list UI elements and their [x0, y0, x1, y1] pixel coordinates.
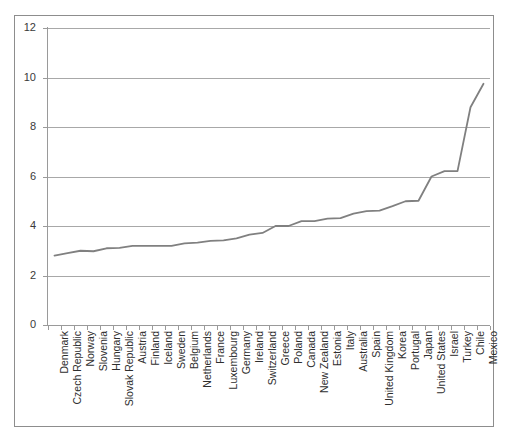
- x-axis-tick-label: Belgium: [189, 331, 200, 369]
- y-axis-tick-label: 12: [10, 22, 36, 33]
- x-axis-tick-mark: [243, 326, 244, 330]
- x-axis-tick-mark: [191, 326, 192, 330]
- x-axis-tick-mark: [334, 326, 335, 330]
- x-axis-tick-mark: [178, 326, 179, 330]
- y-axis-tick-label: 0: [10, 319, 36, 330]
- x-axis-tick-label: Hungary: [111, 331, 122, 371]
- x-axis-tick-label: Sweden: [176, 331, 187, 369]
- x-axis-tick-mark: [100, 326, 101, 330]
- x-axis-tick-label: United Kingdom: [384, 331, 395, 406]
- y-axis-tick-mark: [43, 78, 48, 79]
- x-axis-tick-label: Italy: [345, 331, 356, 350]
- x-axis-tick-mark: [282, 326, 283, 330]
- x-axis-tick-mark: [399, 326, 400, 330]
- x-axis-tick-mark: [321, 326, 322, 330]
- x-axis-tick-mark: [61, 326, 62, 330]
- x-axis-tick-mark: [165, 326, 166, 330]
- x-axis-tick-label: Israel: [449, 331, 460, 357]
- x-axis-tick-mark: [126, 326, 127, 330]
- x-axis-tick-mark: [139, 326, 140, 330]
- x-axis-tick-label: Portugal: [410, 331, 421, 370]
- x-axis-tick-mark: [347, 326, 348, 330]
- x-axis-tick-label: New Zealand: [319, 331, 330, 393]
- x-axis-tick-label: Japan: [423, 331, 434, 360]
- x-axis-tick-mark: [87, 326, 88, 330]
- x-axis-tick-mark: [204, 326, 205, 330]
- y-axis-tick-label: 8: [10, 121, 36, 132]
- x-axis-tick-label: Ireland: [254, 331, 265, 363]
- x-axis-tick-mark: [464, 326, 465, 330]
- y-axis-tick-mark: [43, 177, 48, 178]
- x-axis-tick-label: Switzerland: [267, 331, 278, 385]
- y-axis-tick-label: 10: [10, 72, 36, 83]
- x-axis-tick-mark: [152, 326, 153, 330]
- x-axis-tick-label: United States: [436, 331, 447, 394]
- x-axis-tick-mark: [373, 326, 374, 330]
- x-axis-tick-label: Luxembourg: [228, 331, 239, 389]
- y-axis-tick-mark: [43, 127, 48, 128]
- x-axis-tick-label: Canada: [306, 331, 317, 368]
- x-axis-tick-mark: [360, 326, 361, 330]
- x-axis-tick-mark: [425, 326, 426, 330]
- x-axis-tick-label: Slovenia: [98, 331, 109, 371]
- chart-container: 121086420 DenmarkCzech RepublicNorwaySlo…: [0, 0, 508, 441]
- x-axis-tick-label: Poland: [293, 331, 304, 364]
- line-series: [48, 28, 490, 325]
- x-axis-tick-mark: [269, 326, 270, 330]
- y-axis-tick-label: 2: [10, 270, 36, 281]
- x-axis-tick-mark: [74, 326, 75, 330]
- x-axis-tick-labels: DenmarkCzech RepublicNorwaySloveniaHunga…: [48, 331, 490, 435]
- x-axis-tick-label: Netherlands: [202, 331, 213, 388]
- x-axis-tick-label: Germany: [241, 331, 252, 374]
- x-axis-tick-label: Chile: [475, 331, 486, 355]
- y-axis-tick-label: 4: [10, 220, 36, 231]
- x-axis-tick-label: France: [215, 331, 226, 364]
- x-axis-tick-mark: [48, 326, 49, 330]
- x-axis-tick-mark: [451, 326, 452, 330]
- x-axis-tick-mark: [295, 326, 296, 330]
- series-polyline: [55, 84, 484, 256]
- x-axis-tick-label: Slovak Republic: [124, 331, 135, 406]
- x-axis-tick-label: Turkey: [462, 331, 473, 363]
- x-axis-tick-mark: [477, 326, 478, 330]
- x-axis-tick-label: Finland: [150, 331, 161, 365]
- x-axis-tick-mark: [438, 326, 439, 330]
- x-axis-tick-mark: [386, 326, 387, 330]
- x-axis-tick-label: Mexico: [488, 331, 499, 364]
- x-axis-tick-mark: [308, 326, 309, 330]
- y-axis-tick-label: 6: [10, 171, 36, 182]
- y-axis-tick-mark: [43, 28, 48, 29]
- x-axis-tick-mark: [230, 326, 231, 330]
- x-axis-tick-mark: [217, 326, 218, 330]
- x-axis-tick-label: Spain: [371, 331, 382, 358]
- x-axis-tick-label: Austria: [137, 331, 148, 364]
- x-axis-tick-label: Iceland: [163, 331, 174, 365]
- x-axis-tick-label: Denmark: [59, 331, 70, 374]
- x-axis-tick-label: Australia: [358, 331, 369, 372]
- x-axis-tick-mark: [490, 326, 491, 330]
- x-axis-tick-mark: [412, 326, 413, 330]
- y-axis-tick-mark: [43, 226, 48, 227]
- x-axis-tick-label: Norway: [85, 331, 96, 367]
- x-axis-tick-mark: [113, 326, 114, 330]
- y-axis-tick-mark: [43, 276, 48, 277]
- x-axis-tick-label: Estonia: [332, 331, 343, 366]
- plot-area: [48, 28, 490, 325]
- x-axis-tick-label: Czech Republic: [72, 331, 83, 405]
- x-axis-tick-label: Korea: [397, 331, 408, 359]
- x-axis-tick-label: Greece: [280, 331, 291, 365]
- x-axis-tick-mark: [256, 326, 257, 330]
